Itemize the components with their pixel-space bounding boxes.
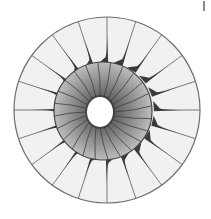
turbine-wheel-figure	[0, 0, 211, 219]
hub-hole-ellipse	[87, 97, 113, 127]
hub-hole	[85, 95, 115, 129]
corner-mark	[203, 1, 205, 11]
